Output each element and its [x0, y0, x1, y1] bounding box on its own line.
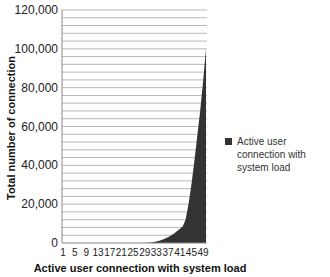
x-tick-label: 33 [151, 247, 163, 258]
y-tick-label: 60,000 [21, 120, 58, 134]
y-tick-label: 120,000 [15, 3, 59, 17]
legend-label: Active user connection with system load [225, 135, 330, 174]
area-series [63, 49, 206, 243]
x-tick-label: 29 [139, 247, 151, 258]
legend: Active user connection with system load [225, 135, 330, 174]
x-tick-label: 21 [116, 247, 128, 258]
x-axis-ticks: 15913172125293337414549 [60, 247, 209, 258]
x-tick-label: 17 [104, 247, 116, 258]
x-tick-label: 45 [186, 247, 198, 258]
y-tick-label: 100,000 [15, 42, 59, 56]
y-axis-ticks: 020,00040,00060,00080,000100,000120,000 [15, 3, 59, 250]
y-axis-label: Total number of connection [5, 56, 17, 200]
x-tick-label: 41 [174, 247, 186, 258]
x-tick-label: 1 [60, 247, 66, 258]
y-tick-label: 80,000 [21, 81, 58, 95]
y-tick-label: 40,000 [21, 158, 58, 172]
gridlines [62, 10, 207, 235]
x-tick-label: 9 [84, 247, 90, 258]
y-tick-label: 20,000 [21, 197, 58, 211]
legend-swatch-icon [225, 138, 232, 145]
x-tick-label: 37 [162, 247, 174, 258]
y-tick-label: 0 [51, 236, 58, 250]
x-axis-label: Active user connection with system load [34, 262, 247, 274]
x-tick-label: 5 [72, 247, 78, 258]
x-tick-label: 49 [198, 247, 210, 258]
x-tick-label: 25 [127, 247, 139, 258]
x-tick-label: 13 [92, 247, 104, 258]
